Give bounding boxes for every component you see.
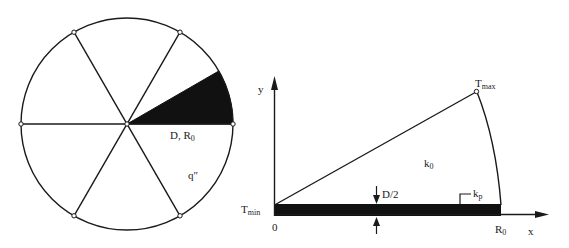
thickness-label: D/2: [382, 189, 399, 200]
heat-flux-text: q″: [188, 169, 198, 181]
thickness-arrow-top-head: [373, 195, 380, 204]
sector-label: D, R0: [170, 130, 195, 143]
tmax-label: Tmax: [475, 78, 496, 91]
origin-label-text: 0: [272, 221, 278, 233]
k0-label-subscript: 0: [430, 162, 434, 171]
diagram-canvas: [0, 0, 569, 248]
node-marker: [19, 122, 23, 126]
tmax-label-text: T: [475, 77, 482, 89]
thickness-label-text: D/2: [382, 188, 399, 200]
x-axis-label: x: [528, 226, 534, 237]
right-panel-fin-section: [271, 76, 549, 234]
x-axis-label-text: x: [528, 225, 534, 237]
x-axis-arrowhead: [535, 211, 549, 218]
thickness-arrow-bottom-head: [373, 217, 380, 226]
kp-label: kp: [473, 188, 483, 201]
k0-label: k0: [424, 158, 434, 171]
node-marker: [178, 214, 182, 218]
kp-label-subscript: p: [479, 192, 483, 201]
center-node-marker: [125, 122, 129, 126]
tmin-label-subscript: min: [248, 208, 260, 217]
r0-label-subscript: 0: [502, 228, 506, 237]
left-panel-cross-section: [19, 18, 235, 230]
y-axis-label-text: y: [258, 83, 264, 95]
tmin-label-text: T: [241, 203, 248, 215]
node-marker: [72, 214, 76, 218]
node-marker: [231, 122, 235, 126]
y-axis-label: y: [258, 84, 264, 95]
sector-label-text: D, R: [170, 129, 191, 141]
kp-leader: [460, 194, 471, 204]
sector-edge: [275, 92, 477, 205]
origin-label: 0: [272, 222, 278, 233]
tmax-label-subscript: max: [482, 82, 496, 91]
node-marker: [72, 30, 76, 34]
y-axis-arrowhead: [271, 76, 278, 90]
node-marker: [178, 30, 182, 34]
heat-flux-label: q″: [188, 170, 198, 181]
tmin-label: Tmin: [241, 204, 260, 217]
r0-label: R0: [495, 224, 506, 237]
sector-label-subscript: 0: [191, 134, 195, 143]
